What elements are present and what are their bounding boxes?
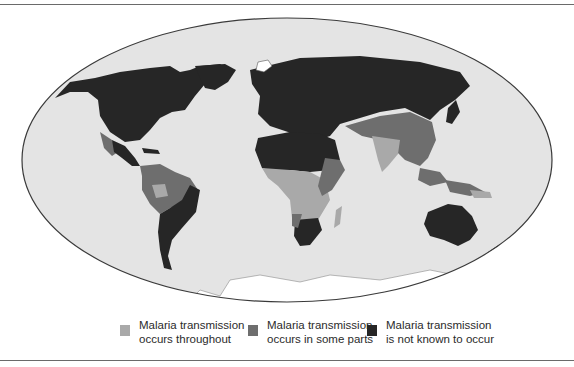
- world-map: [0, 0, 574, 367]
- swatch-throughout: [120, 325, 130, 336]
- legend-label-line1: Malaria transmission: [267, 318, 373, 332]
- legend-label-line1: Malaria transmission: [139, 318, 244, 332]
- bottom-rule: [0, 360, 574, 361]
- legend-item-some-parts: Malaria transmission occurs in some part…: [248, 318, 373, 346]
- legend-label-line2: occurs throughout: [139, 332, 244, 346]
- swatch-some-parts: [248, 325, 258, 336]
- legend-label-line1: Malaria transmission: [386, 318, 494, 332]
- legend-item-not-known: Malaria transmission is not known to occ…: [367, 318, 494, 346]
- legend-item-throughout: Malaria transmission occurs throughout: [120, 318, 244, 346]
- legend-label-line2: is not known to occur: [386, 332, 494, 346]
- legend-label-line2: occurs in some parts: [267, 332, 373, 346]
- swatch-not-known: [367, 325, 377, 336]
